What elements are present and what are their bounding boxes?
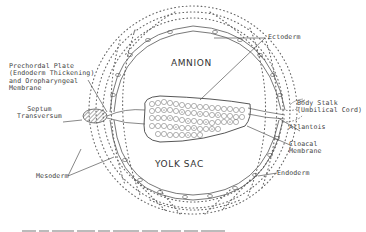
endoderm-label: Endoderm [277,170,310,177]
septum-transversum-shape [83,109,107,123]
cloacal-membrane-label: Cloacal Membrane [289,141,322,156]
prechordal-plate-label: Prechordal Plate (Endoderm Thickening) a… [9,63,94,93]
yolk-sac-label: YOLK SAC [155,159,204,169]
amnion-label: AMNION [171,58,212,68]
allantois-label: Allantois [289,124,326,131]
embryonic-disc [144,96,251,142]
body-stalk-label: Body Stalk (Umbilical Cord) [297,100,362,115]
ectoderm-label: Ectoderm [268,34,301,41]
septum-transversum-label: Septum Transversum [17,106,62,121]
mesoderm-label: Mesoderm [36,173,69,180]
embryo-diagram: AMNION YOLK SAC Ectoderm Prechordal Plat… [0,0,366,232]
figure-caption-illegible [22,221,242,227]
